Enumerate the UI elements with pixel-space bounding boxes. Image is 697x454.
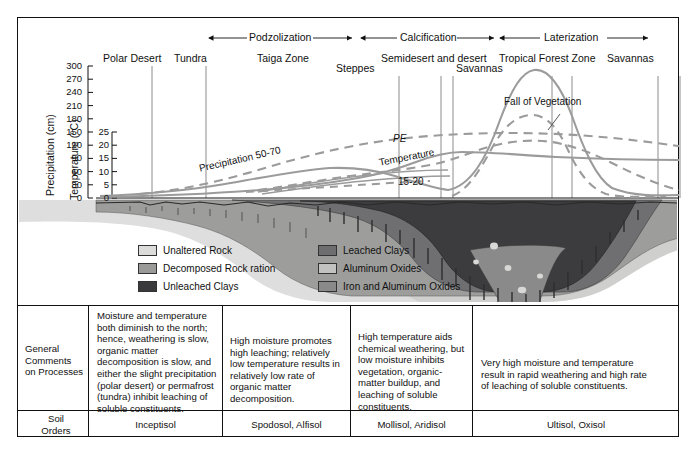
curve-precipitation [100, 70, 679, 196]
table-row-header-general-comments: General Comments on Processes [25, 343, 87, 378]
temperature-axis [112, 132, 117, 198]
precip-tick-120: 120 [56, 139, 82, 150]
legend-item-decomposed-rock: Decomposed Rock ration [138, 262, 275, 275]
table-vrule-2 [222, 305, 223, 410]
soil-orders-header-line-2: Orders [25, 425, 87, 437]
legend-label-aluminum-oxides: Aluminum Oxides [343, 263, 421, 274]
summary-table: General Comments on Processes Moisture a… [17, 305, 679, 437]
table-cell-comment-1: Moisture and temperature both diminish t… [97, 310, 217, 414]
row-header-line-3: on Processes [25, 366, 87, 378]
zone-label-savannas-left: Savannas [456, 62, 503, 74]
legend-label-iron-aluminum-oxides: Iron and Aluminum Oxides [343, 281, 460, 292]
precip-tick-90: 90 [56, 152, 82, 163]
temp-tick-15: 15 [93, 152, 109, 163]
climate-curves [100, 70, 679, 197]
precip-tick-150: 150 [56, 126, 82, 137]
curve-label-fall-of-vegetation: Fall of Vegetation [504, 96, 581, 107]
temp-tick-25: 25 [93, 126, 109, 137]
legend-label-unaltered-rock: Unaltered Rock [163, 245, 232, 256]
legend-swatch-unleached-clays-icon [138, 281, 157, 292]
zone-label-tundra: Tundra [174, 52, 207, 64]
zone-label-savannas-right: Savannas [607, 52, 654, 64]
legend-item-unleached-clays: Unleached Clays [138, 280, 239, 293]
legend-item-leached-clays: Leached Clays [318, 244, 409, 257]
legend: Unaltered Rock Decomposed Rock ration Un… [138, 244, 468, 296]
temp-tick-0: 0 [93, 192, 109, 203]
table-cell-comment-4: Very high moisture and temperature resul… [481, 357, 649, 392]
temp-tick-20: 20 [93, 139, 109, 150]
process-label-podzolization: Podzolization [249, 31, 311, 43]
legend-swatch-aluminum-oxides-icon [318, 263, 337, 274]
table-bottom-rule [17, 436, 679, 437]
zone-label-steppes: Steppes [336, 62, 375, 74]
legend-swatch-iron-aluminum-oxides-icon [318, 281, 337, 292]
figure-root: Precipitation (cm) Temperature (°C) 300 … [0, 0, 697, 454]
temp-tick-10: 10 [93, 166, 109, 177]
process-label-calcification: Calcification [400, 31, 457, 43]
precip-tick-60: 60 [56, 166, 82, 177]
precip-tick-30: 30 [56, 179, 82, 190]
precip-tick-0: 0 [56, 192, 82, 203]
table-cell-soil-order-3: Mollisol, Aridisol [351, 419, 472, 431]
table-vrule-3 [350, 305, 351, 410]
precipitation-axis-title: Precipitation (cm) [44, 114, 56, 196]
row-header-line-2: Comments [25, 355, 87, 367]
table-cell-soil-order-4: Ultisol, Oxisol [473, 419, 679, 431]
table-cell-comment-2: High moisture promotes high leaching; re… [230, 335, 344, 405]
legend-swatch-decomposed-rock-icon [138, 263, 157, 274]
table-row-header-soil-orders: Soil Orders [25, 413, 87, 436]
legend-item-iron-aluminum-oxides: Iron and Aluminum Oxides [318, 280, 460, 293]
precip-tick-210: 210 [56, 100, 82, 111]
legend-swatch-leached-clays-icon [318, 245, 337, 256]
table-vrule-4 [472, 305, 473, 410]
legend-label-unleached-clays: Unleached Clays [163, 281, 239, 292]
curve-label-temperature-range: 15-20 [398, 176, 424, 187]
legend-label-decomposed-rock: Decomposed Rock ration [163, 263, 275, 274]
legend-item-unaltered-rock: Unaltered Rock [138, 244, 232, 257]
process-label-laterization: Laterization [544, 31, 598, 43]
precip-tick-240: 240 [56, 86, 82, 97]
legend-item-aluminum-oxides: Aluminum Oxides [318, 262, 421, 275]
table-cell-comment-3: High temperature aids chemical weatherin… [358, 331, 468, 412]
precip-tick-300: 300 [56, 60, 82, 71]
legend-label-leached-clays: Leached Clays [343, 245, 409, 256]
curve-label-pe: PE [393, 133, 406, 144]
table-cell-soil-order-1: Inceptisol [89, 419, 222, 431]
precip-tick-270: 270 [56, 73, 82, 84]
legend-swatch-unaltered-rock-icon [138, 245, 157, 256]
zone-label-polar-desert: Polar Desert [103, 52, 161, 64]
temp-tick-5: 5 [93, 179, 109, 190]
precip-tick-180: 180 [56, 113, 82, 124]
zone-label-tropical-forest-zone: Tropical Forest Zone [499, 52, 595, 64]
table-vrule-1 [88, 305, 89, 410]
soil-orders-header-line-1: Soil [25, 413, 87, 425]
zone-label-taiga-zone: Taiga Zone [257, 52, 309, 64]
table-cell-soil-order-2: Spodosol, Alfisol [223, 419, 350, 431]
table-top-rule [17, 305, 679, 306]
row-header-line-1: General [25, 343, 87, 355]
